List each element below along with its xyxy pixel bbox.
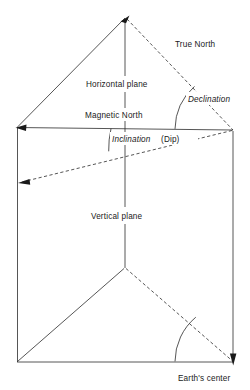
inclination-dip-arrowhead [18,179,30,185]
true-north-arrowhead [121,16,130,24]
label-vertical-plane: Vertical plane [91,212,143,221]
earths-center-arc [175,317,196,361]
lower-triangle-left-edge [18,269,125,362]
label-magnetic-north: Magnetic North [85,111,143,120]
label-declination: Declination [188,95,230,104]
label-dip: (Dip) [161,135,180,144]
label-earths-center: Earth's center [178,374,230,383]
earths-center-arrowhead [230,354,237,366]
label-horizontal-plane: Horizontal plane [86,80,148,89]
magnetic-field-diagram: True North Horizontal plane Magnetic Nor… [0,0,250,390]
label-inclination: Inclination [112,135,151,144]
label-true-north: True North [175,40,216,49]
diagram-canvas: True North Horizontal plane Magnetic Nor… [0,0,250,390]
earths-center-line [126,269,233,362]
